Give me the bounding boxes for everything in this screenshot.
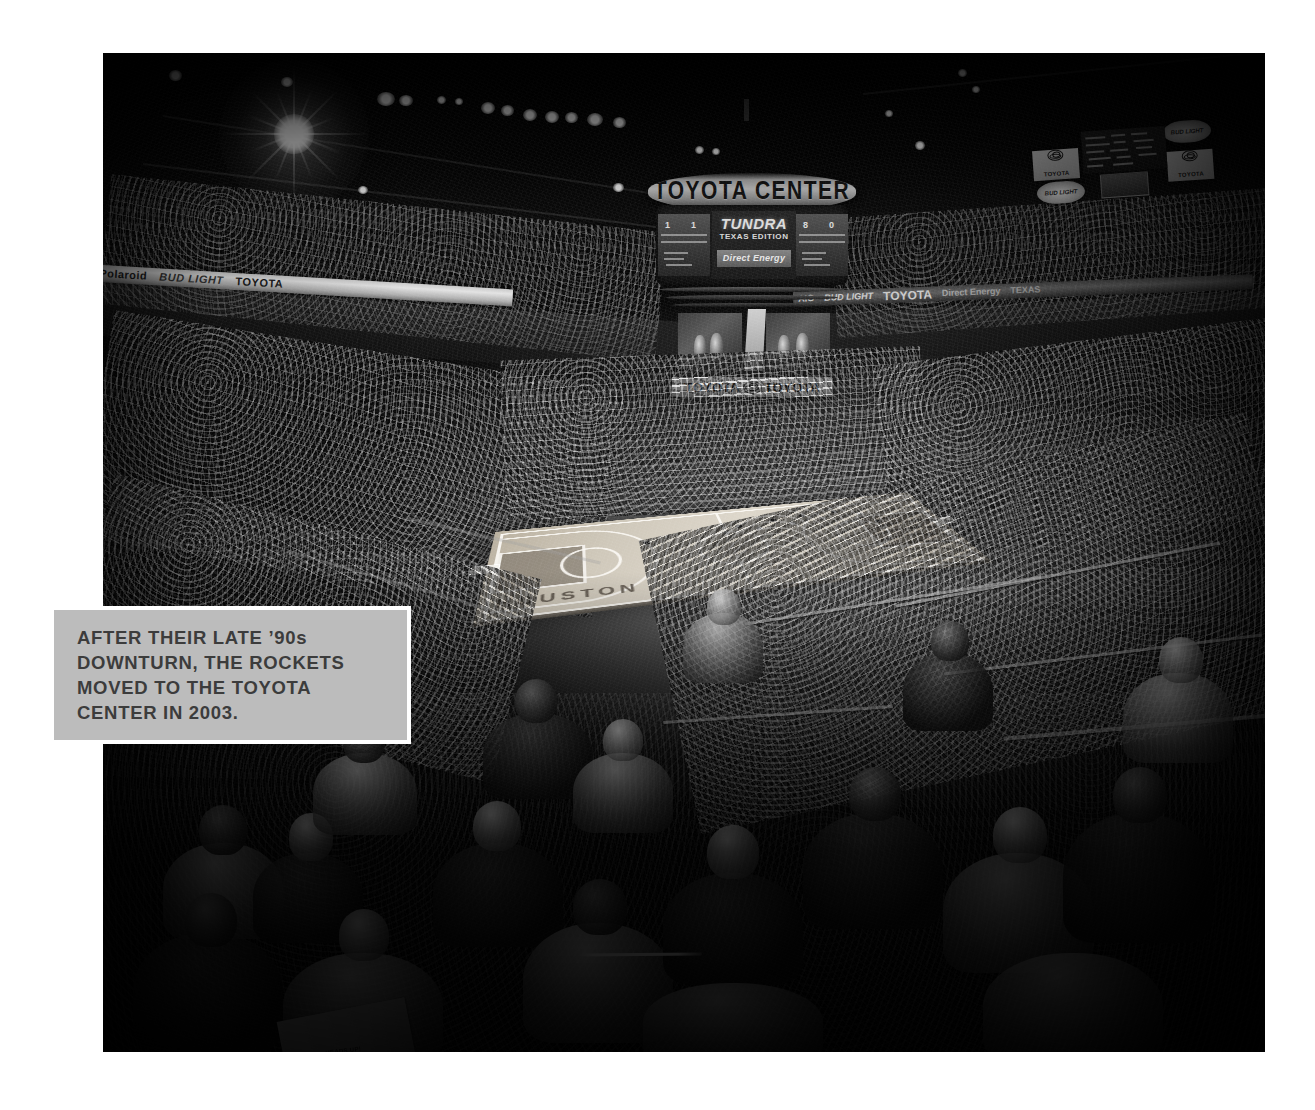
photo-caption-text: AFTER THEIR LATE ’90s DOWNTURN, THE ROCK… xyxy=(77,625,345,725)
arena-photograph: Polaroid BUD LIGHT TOYOTA AIG BUD LIGHT … xyxy=(103,53,1265,1052)
page-root: Polaroid BUD LIGHT TOYOTA AIG BUD LIGHT … xyxy=(0,0,1315,1110)
photo-caption-box: AFTER THEIR LATE ’90s DOWNTURN, THE ROCK… xyxy=(50,606,411,744)
photo-bottom-vignette xyxy=(103,53,1265,1052)
